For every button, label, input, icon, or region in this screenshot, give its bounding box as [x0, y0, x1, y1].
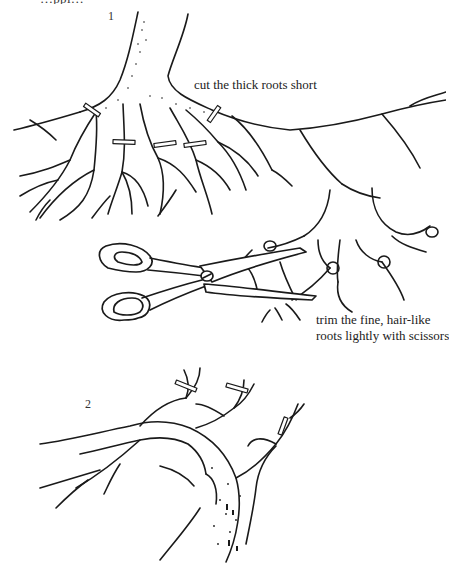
cut-markers-figure-2: [175, 380, 288, 435]
caption-trim-line-1: trim the fine, hair-like: [316, 312, 431, 328]
caption-trim-line-2: roots lightly with scissors: [316, 328, 449, 344]
tree-roots-figure-1: [14, 12, 446, 220]
figure-2-number: 2: [85, 397, 91, 412]
scissors-illustration: [99, 244, 316, 321]
tree-branch-illustration: [40, 368, 304, 562]
caption-cut-thick-roots: cut the thick roots short: [194, 77, 317, 93]
figure-1-number: 1: [108, 9, 114, 24]
cut-markers-figure-1: [83, 103, 220, 147]
